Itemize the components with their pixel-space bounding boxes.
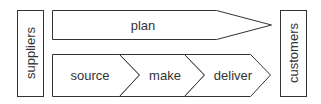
supply-chain-diagram: suppliers plan source make deliver custo… [0, 0, 321, 104]
plan-arrow: plan [53, 11, 272, 40]
customers-label: customers [286, 23, 301, 83]
customers-box: customers [281, 11, 307, 97]
suppliers-box: suppliers [18, 11, 44, 97]
suppliers-label: suppliers [23, 26, 38, 79]
plan-label: plan [131, 18, 156, 33]
make-label: make [149, 68, 181, 83]
source-label: source [70, 68, 109, 83]
deliver-label: deliver [214, 68, 253, 83]
